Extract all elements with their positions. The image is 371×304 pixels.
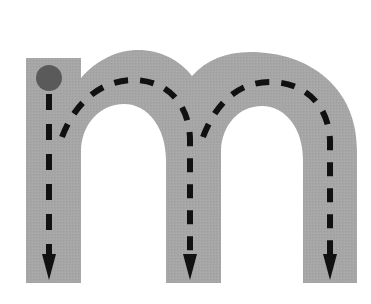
- letter-m-tracing-figure: [0, 0, 371, 304]
- start-dot-icon: [36, 65, 62, 91]
- letter-tracing-canvas: [0, 0, 371, 304]
